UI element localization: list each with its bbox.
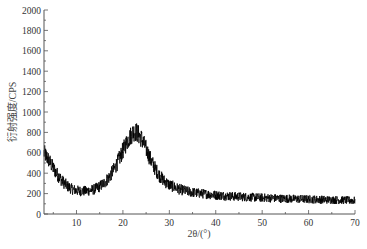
x-tick-label: 10 bbox=[72, 218, 82, 228]
x-tick-label: 60 bbox=[304, 218, 314, 228]
y-tick-label: 1400 bbox=[22, 67, 41, 77]
y-tick-label: 200 bbox=[27, 189, 42, 199]
y-tick-label: 1800 bbox=[22, 26, 41, 36]
y-tick-label: 2000 bbox=[22, 6, 41, 16]
y-tick-label: 600 bbox=[27, 148, 42, 158]
y-axis-label: 衍射强度/CPS bbox=[6, 82, 18, 143]
x-tick-label: 50 bbox=[257, 218, 267, 228]
x-tick-label: 20 bbox=[118, 218, 128, 228]
x-tick-label: 70 bbox=[350, 218, 360, 228]
x-axis-ticks: 10203040506070 bbox=[53, 210, 360, 228]
xrd-chart: 0200400600800100012001400160018002000 10… bbox=[0, 0, 367, 249]
y-tick-label: 1600 bbox=[22, 46, 41, 56]
y-tick-label: 0 bbox=[36, 210, 41, 220]
x-axis-label: 2θ/(°) bbox=[187, 228, 210, 240]
y-tick-label: 800 bbox=[27, 128, 42, 138]
xrd-curve bbox=[44, 124, 355, 204]
x-tick-label: 30 bbox=[165, 218, 175, 228]
y-tick-label: 1000 bbox=[22, 108, 41, 118]
y-tick-label: 1200 bbox=[22, 87, 41, 97]
x-tick-label: 40 bbox=[211, 218, 221, 228]
y-tick-label: 400 bbox=[27, 169, 42, 179]
